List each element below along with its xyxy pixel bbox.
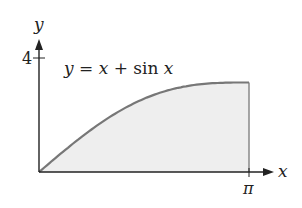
y-tick-label: 4: [22, 49, 32, 68]
y-axis-label: y: [33, 14, 44, 34]
y-axis-arrow-icon: [35, 39, 43, 50]
x-axis-label: x: [278, 161, 288, 181]
function-label: y = x + sin x: [63, 58, 174, 78]
x-axis-arrow-icon: [263, 168, 274, 176]
x-tick-label: π: [242, 179, 254, 198]
chart: 4 π y x y = x + sin x: [0, 0, 302, 208]
shaded-area: [39, 83, 249, 173]
